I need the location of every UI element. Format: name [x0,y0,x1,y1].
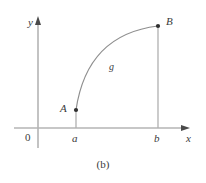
origin-label: 0 [25,132,31,143]
tick-label-b: b [154,133,160,144]
figure-caption: (b) [0,158,206,170]
point-b-marker [156,24,160,28]
curve-g-label: g [109,62,114,72]
x-axis-arrowhead [181,125,190,131]
y-axis-label: y [28,17,33,28]
point-b-label: B [166,16,173,27]
figure-container: y x 0 A B g a b (b) [0,0,206,183]
curve-g [76,26,158,110]
tick-label-a: a [72,133,78,144]
point-a-label: A [60,103,67,114]
point-a-marker [74,108,78,112]
x-axis-label: x [186,133,191,144]
y-axis-arrowhead [35,16,41,25]
